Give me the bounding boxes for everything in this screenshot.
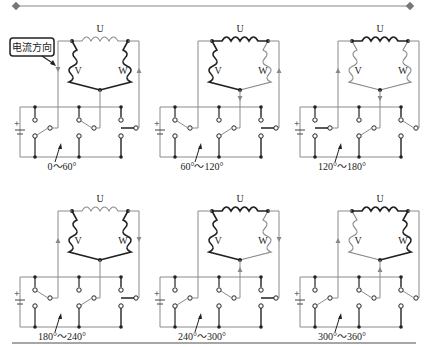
angle-caption: 60°～120° [181,161,224,172]
lead-u [58,211,72,298]
label-v: V [74,65,82,76]
current-arrow-icon [277,68,282,73]
switch-3 [403,121,414,128]
switch-1 [177,121,188,128]
switch-1 [37,128,48,135]
lead-w [408,211,419,298]
lead-w [268,211,279,298]
label-v: V [214,65,222,76]
switch-1 [317,298,328,305]
current-arrow-icon [378,96,383,101]
label-u: U [376,193,384,204]
label-u: U [376,23,384,34]
current-arrow-icon [238,267,243,272]
angle-caption: 120°～180° [318,161,366,172]
coil-u [212,37,268,41]
diamond-icon [406,2,414,10]
label-u: U [236,23,244,34]
callout-text: 电流方向 [12,41,52,53]
current-arrow-icon [238,96,243,101]
panel-5: UVW+240°～300° [154,193,282,342]
label-v: V [354,235,362,246]
coil-u [352,37,408,41]
label-w: W [398,235,408,246]
current-arrow-icon [137,68,142,73]
panel-3: UVW+120°～180° [294,23,419,172]
label-w: W [398,65,408,76]
label-w: W [258,235,268,246]
current-arrow-icon [336,68,341,73]
angle-caption: 300°～360° [318,331,366,342]
battery-plus: + [14,118,20,129]
coil-u [72,207,128,211]
lead-u [338,41,352,128]
current-arrow-icon [277,237,282,242]
switch-2 [361,291,372,298]
current-arrow-icon [336,238,341,243]
current-arrow-icon [56,67,61,72]
lead-u [58,41,72,128]
switch-3 [403,291,414,298]
angle-caption: 180°～240° [38,331,86,342]
label-v: V [354,65,362,76]
current-arrow-icon [56,238,61,243]
lead-u [198,41,212,128]
coil-u [352,207,408,211]
current-arrow-icon [137,237,142,242]
switch-1 [37,291,48,298]
lead-w [128,211,139,298]
panel-2: UVW+60°～120° [154,23,282,172]
battery-plus: + [294,288,300,299]
label-u: U [96,193,104,204]
label-w: W [258,65,268,76]
coil-u [72,37,128,41]
label-v: V [74,235,82,246]
switch-2 [81,298,92,305]
switch-2 [361,128,372,135]
battery-plus: + [14,288,20,299]
battery-plus: + [154,288,160,299]
current-arrow-icon [378,267,383,272]
current-direction-callout: 电流方向 [10,38,56,66]
lead-u [198,211,212,298]
switch-2 [81,121,92,128]
battery-plus: + [294,118,300,129]
angle-caption: 0～60° [48,161,77,172]
lead-w [128,41,139,128]
panel-6: UVW+300°～360° [294,193,419,342]
switch-2 [221,128,232,135]
lead-w [268,41,279,128]
label-w: W [118,65,128,76]
commutation-diagram: 电流方向 UVW+0～60°UVW+60°～120°UVW+120°～180°U… [0,0,429,347]
diamond-icon [12,2,20,10]
switch-2 [221,291,232,298]
label-u: U [236,193,244,204]
angle-caption: 240°～300° [178,331,226,342]
panel-4: UVW+180°～240° [14,193,142,342]
label-v: V [214,235,222,246]
switch-1 [177,298,188,305]
label-w: W [118,235,128,246]
label-u: U [96,23,104,34]
lead-u [338,211,352,298]
lead-w [408,41,419,128]
coil-u [212,207,268,211]
top-rule [12,2,414,10]
battery-plus: + [154,118,160,129]
